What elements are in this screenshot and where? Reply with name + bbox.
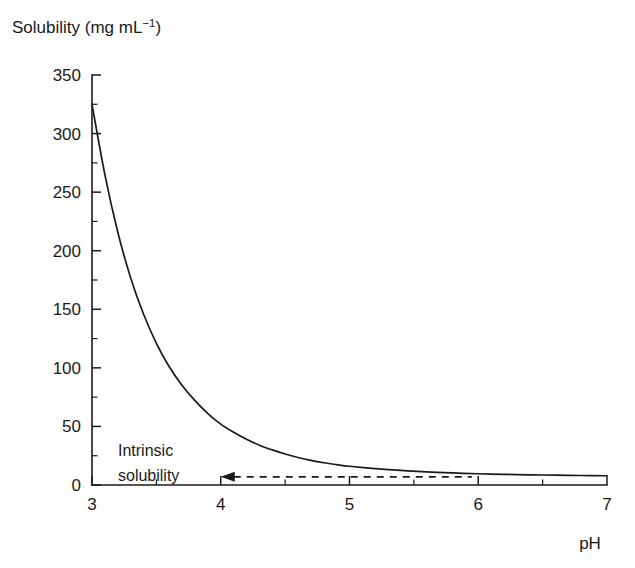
y-tick-label-100: 100: [53, 359, 81, 378]
x-axis-title: pH: [579, 534, 601, 553]
y-axis-title-close: ): [156, 18, 162, 37]
y-tick-label-300: 300: [53, 125, 81, 144]
y-axis-ticks: [92, 75, 101, 485]
y-tick-label-350: 350: [53, 66, 81, 85]
annotation-line-1: Intrinsic: [118, 442, 173, 459]
x-tick-label-4: 4: [216, 495, 225, 514]
y-axis-tick-labels: 050100150200250300350: [53, 66, 81, 495]
x-tick-label-7: 7: [602, 495, 611, 514]
x-tick-label-5: 5: [345, 495, 354, 514]
x-axis-tick-labels: 34567: [87, 495, 611, 514]
solubility-ph-chart: Solubility (mg mL−1) 0501001502002503003…: [0, 0, 635, 568]
y-axis-title-superscript: −1: [142, 17, 155, 29]
y-tick-label-150: 150: [53, 300, 81, 319]
y-tick-label-50: 50: [62, 417, 81, 436]
y-tick-label-250: 250: [53, 183, 81, 202]
y-tick-label-200: 200: [53, 242, 81, 261]
intrinsic-solubility-arrowhead: [221, 472, 235, 482]
annotation-line-2: solubility: [118, 467, 179, 484]
x-tick-label-3: 3: [87, 495, 96, 514]
y-axis-title-base: Solubility (mg mL: [12, 18, 142, 37]
chart-canvas: Solubility (mg mL−1) 0501001502002503003…: [0, 0, 635, 568]
y-tick-label-0: 0: [72, 476, 81, 495]
solubility-curve: [92, 104, 607, 475]
y-axis-title: Solubility (mg mL−1): [12, 17, 161, 37]
x-tick-label-6: 6: [474, 495, 483, 514]
